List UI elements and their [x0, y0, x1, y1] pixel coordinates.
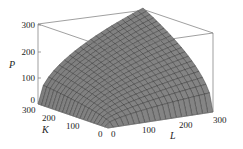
l-tick-200: 200 — [179, 120, 193, 130]
l-tick-0: 0 — [111, 129, 116, 139]
k-tick-100: 100 — [66, 121, 80, 131]
production-surface — [38, 8, 213, 128]
p-tick-300: 300 — [22, 20, 36, 30]
k-tick-0: 0 — [98, 129, 103, 139]
l-axis-title: L — [169, 130, 176, 141]
surface-plot: 300 200 100 0 P 300 200 100 0 K 0 100 20… — [0, 0, 243, 149]
l-tick-100: 100 — [142, 125, 156, 135]
l-tick-300: 300 — [213, 115, 227, 125]
p-tick-100: 100 — [22, 73, 36, 83]
p-axis-title: P — [8, 59, 15, 70]
k-tick-200: 200 — [42, 113, 56, 123]
p-tick-200: 200 — [22, 47, 36, 57]
k-axis-title: K — [41, 124, 50, 135]
k-tick-300: 300 — [22, 105, 36, 115]
p-tick-0: 0 — [31, 95, 36, 105]
